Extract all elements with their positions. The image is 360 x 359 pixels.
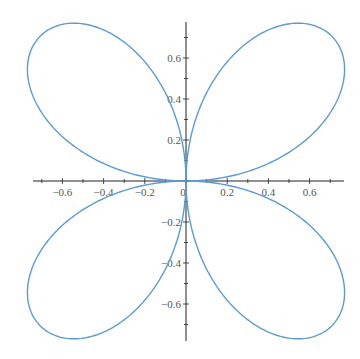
x-tick-label: 0.6 bbox=[303, 186, 317, 198]
x-tick-label: −0.6 bbox=[52, 186, 72, 198]
y-tick-label: −0.2 bbox=[161, 216, 181, 228]
y-tick-label: −0.6 bbox=[161, 298, 181, 310]
x-tick-label: 0.2 bbox=[220, 186, 234, 198]
y-tick-label: 0.4 bbox=[167, 93, 181, 105]
y-tick-label: −0.4 bbox=[161, 257, 181, 269]
x-tick-label: −0.2 bbox=[135, 186, 155, 198]
x-tick-label: −0.4 bbox=[94, 186, 114, 198]
y-tick-label: 0.2 bbox=[167, 134, 181, 146]
polar-rose-chart: −0.6−0.4−0.200.20.40.6−0.6−0.4−0.20.20.4… bbox=[0, 0, 360, 359]
y-tick-label: 0.6 bbox=[167, 52, 181, 64]
